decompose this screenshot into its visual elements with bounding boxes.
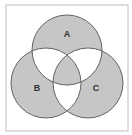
- label-b: B: [34, 83, 41, 93]
- label-c: C: [93, 83, 100, 93]
- venn-diagram: A B C: [0, 0, 132, 135]
- label-a: A: [64, 29, 71, 39]
